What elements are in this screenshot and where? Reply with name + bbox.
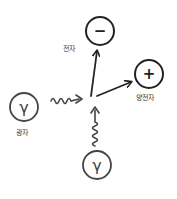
- photon-label: 광자: [16, 130, 28, 137]
- photon-left-symbol: γ: [19, 98, 28, 117]
- photon-bottom-wavy-line: [91, 107, 99, 146]
- positron-label: 양전자: [136, 95, 154, 102]
- positron-arrow: [97, 82, 131, 96]
- electron-node: −: [86, 17, 114, 45]
- positron-node: +: [135, 60, 163, 88]
- photon-bottom-symbol: γ: [92, 156, 101, 175]
- photon-left-node: γ: [10, 93, 38, 121]
- photon-left-wavy-line: [51, 95, 82, 104]
- photon-bottom-node: γ: [83, 151, 111, 179]
- electron-label: 전자: [63, 46, 75, 53]
- electron-symbol: −: [94, 22, 107, 40]
- electron-arrow: [91, 51, 97, 96]
- positron-symbol: +: [143, 65, 156, 83]
